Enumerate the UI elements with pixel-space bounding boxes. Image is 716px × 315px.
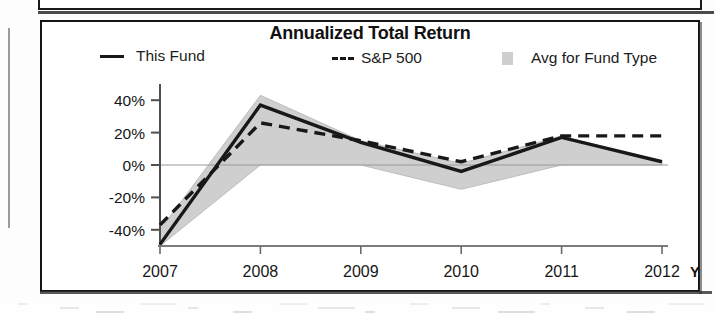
- svg-text:2009: 2009: [343, 263, 379, 280]
- scan-speck: [585, 307, 604, 309]
- scan-speck: [498, 311, 535, 313]
- svg-text:2010: 2010: [443, 263, 479, 280]
- chart-title: Annualized Total Return: [42, 23, 698, 44]
- scan-speck: [188, 307, 198, 309]
- svg-text:YTD: YTD: [690, 264, 698, 280]
- chart-svg: 40%20%0%-20%-40% 20072008200920102011201…: [42, 74, 698, 290]
- svg-text:-20%: -20%: [109, 189, 145, 206]
- scan-speck: [452, 307, 480, 309]
- scan-speck: [540, 303, 550, 305]
- legend-label-avg-for-fund-type: Avg for Fund Type: [531, 49, 657, 67]
- svg-text:20%: 20%: [114, 125, 145, 142]
- scan-speck: [140, 303, 177, 305]
- scan-speck: [365, 311, 375, 313]
- legend-label-this-fund: This Fund: [136, 47, 205, 65]
- scan-speck: [627, 311, 655, 313]
- scan-speck: [318, 307, 355, 309]
- scan-speck: [410, 303, 429, 305]
- solid-line-swatch-icon: [100, 55, 124, 58]
- svg-text:0%: 0%: [123, 157, 146, 174]
- y-axis-tick-labels: 40%20%0%-20%-40%: [109, 92, 145, 239]
- svg-text:2008: 2008: [243, 263, 279, 280]
- legend-item-this-fund: This Fund: [100, 47, 205, 65]
- scan-speck: [60, 307, 79, 309]
- legend-item-sp-500: S&P 500: [332, 49, 422, 67]
- scan-speckle-band: [0, 299, 716, 315]
- scan-speck: [18, 303, 28, 305]
- avg-for-fund-type-band: [160, 95, 662, 246]
- svg-text:2011: 2011: [544, 263, 579, 280]
- chart-panel-right-edge: [699, 22, 702, 294]
- legend-item-avg-for-fund-type: Avg for Fund Type: [502, 49, 657, 67]
- chart-legend: This Fund S&P 500 Avg for Fund Type: [42, 47, 698, 73]
- scan-speck: [233, 311, 252, 313]
- annualized-total-return-chart-panel: Annualized Total Return This Fund S&P 50…: [40, 20, 700, 292]
- column-divider-rule: [8, 28, 10, 228]
- scan-speck: [96, 311, 124, 313]
- panel-above-frame: [38, 0, 702, 10]
- chart-panel-bottom-edge: [40, 291, 712, 294]
- svg-text:40%: 40%: [114, 92, 145, 109]
- scan-speck: [279, 303, 307, 305]
- area-swatch-icon: [502, 52, 513, 65]
- x-axis-tick-labels: 200720082009201020112012YTD: [142, 263, 698, 280]
- plot-area: 40%20%0%-20%-40% 20072008200920102011201…: [42, 74, 698, 290]
- svg-text:2007: 2007: [142, 263, 178, 280]
- panel-above-edge: [38, 11, 714, 14]
- svg-text:-40%: -40%: [109, 222, 145, 239]
- dashed-line-swatch-icon: [332, 57, 354, 60]
- scan-speck: [668, 303, 705, 305]
- svg-text:2012: 2012: [644, 263, 680, 280]
- legend-label-sp-500: S&P 500: [361, 49, 422, 67]
